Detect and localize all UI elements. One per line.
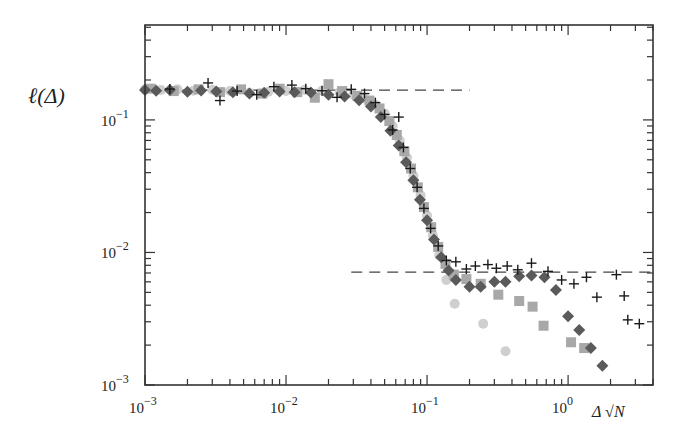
square-marker	[528, 302, 538, 312]
plus-marker	[611, 270, 621, 280]
x-tick-label: 10−1	[411, 394, 439, 416]
plus-marker	[569, 279, 579, 289]
y-tick-label: 10−3	[101, 372, 129, 394]
y-tick-label: 10−2	[101, 239, 129, 261]
x-tick-label: 10−2	[270, 394, 298, 416]
log-log-scatter-chart: 10−310−210−110010−310−210−1 ℓ(Δ) Δ √N	[0, 0, 682, 447]
plus-marker	[634, 319, 644, 329]
diamond-marker	[562, 310, 574, 322]
circle-marker	[501, 346, 511, 356]
square-marker	[493, 290, 503, 300]
square-marker	[514, 296, 524, 306]
square-marker	[323, 79, 333, 89]
tick-labels: 10−310−210−110010−310−210−1	[101, 107, 573, 416]
y-axis-label: ℓ(Δ)	[28, 83, 65, 108]
y-tick-label: 10−1	[101, 107, 129, 129]
series-plus	[165, 78, 644, 329]
square-marker	[566, 337, 576, 347]
series-diamonds	[139, 84, 608, 372]
plus-marker	[502, 261, 512, 271]
diamond-marker	[596, 360, 608, 372]
data-series	[139, 78, 644, 372]
plus-marker	[394, 112, 404, 122]
diamond-marker	[573, 324, 585, 336]
plus-marker	[623, 315, 633, 325]
plus-marker	[470, 261, 480, 271]
diamond-marker	[500, 276, 512, 288]
x-tick-label: 10−3	[129, 394, 157, 416]
x-axis-label: Δ √N	[591, 403, 626, 420]
diamond-marker	[488, 276, 500, 288]
plus-marker	[581, 272, 591, 282]
square-marker	[539, 321, 549, 331]
x-tick-label: 100	[552, 394, 573, 416]
plus-marker	[526, 258, 536, 268]
plus-marker	[592, 292, 602, 302]
plus-marker	[557, 275, 567, 285]
plus-marker	[451, 257, 461, 267]
plus-marker	[619, 291, 629, 301]
series-circles	[140, 84, 511, 356]
series-squares	[146, 79, 589, 353]
diamond-marker	[550, 284, 562, 296]
circle-marker	[478, 319, 488, 329]
diamond-marker	[525, 270, 537, 282]
circle-marker	[450, 299, 460, 309]
